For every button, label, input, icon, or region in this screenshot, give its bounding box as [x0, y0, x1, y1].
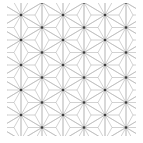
pattern-node [104, 39, 107, 42]
pattern-node [0, 1, 1, 4]
pattern-node [62, 14, 65, 17]
pattern-node [41, 126, 44, 129]
pattern-node [62, 39, 65, 42]
pattern-node [20, 89, 23, 92]
pattern-lines [0, 0, 143, 143]
pattern-node [0, 26, 1, 29]
pattern-node [83, 126, 86, 129]
pattern-node [125, 26, 128, 29]
pattern-nodes [0, 0, 143, 143]
pattern-node [104, 14, 107, 17]
pattern-node [104, 89, 107, 92]
asanoha-pattern [0, 0, 143, 143]
pattern-node [125, 1, 128, 4]
pattern-node [0, 51, 1, 54]
pattern-node [20, 64, 23, 67]
pattern-node [41, 76, 44, 79]
pattern-node [20, 139, 23, 142]
pattern-node [41, 1, 44, 4]
pattern-node [62, 114, 65, 117]
pattern-node [83, 76, 86, 79]
pattern-node [83, 101, 86, 104]
pattern-node [41, 51, 44, 54]
pattern-node [20, 14, 23, 17]
pattern-node [62, 64, 65, 67]
pattern-node [62, 139, 65, 142]
pattern-node [104, 64, 107, 67]
pattern-node [41, 101, 44, 104]
pattern-node [104, 114, 107, 117]
pattern-node [20, 39, 23, 42]
pattern-node [83, 51, 86, 54]
pattern-node [125, 51, 128, 54]
pattern-node [125, 76, 128, 79]
pattern-node [0, 126, 1, 129]
pattern-node [125, 101, 128, 104]
pattern-node [0, 101, 1, 104]
pattern-node [104, 139, 107, 142]
pattern-node [0, 76, 1, 79]
pattern-node [83, 26, 86, 29]
pattern-node [20, 114, 23, 117]
pattern-node [125, 126, 128, 129]
pattern-node [41, 26, 44, 29]
pattern-node [83, 1, 86, 4]
pattern-node [62, 89, 65, 92]
